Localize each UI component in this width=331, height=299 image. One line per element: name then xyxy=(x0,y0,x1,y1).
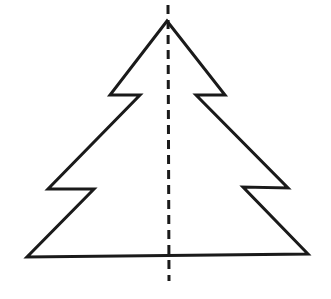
symmetry-axis-dashed-line xyxy=(168,5,169,281)
tree-symmetry-diagram xyxy=(0,0,331,299)
